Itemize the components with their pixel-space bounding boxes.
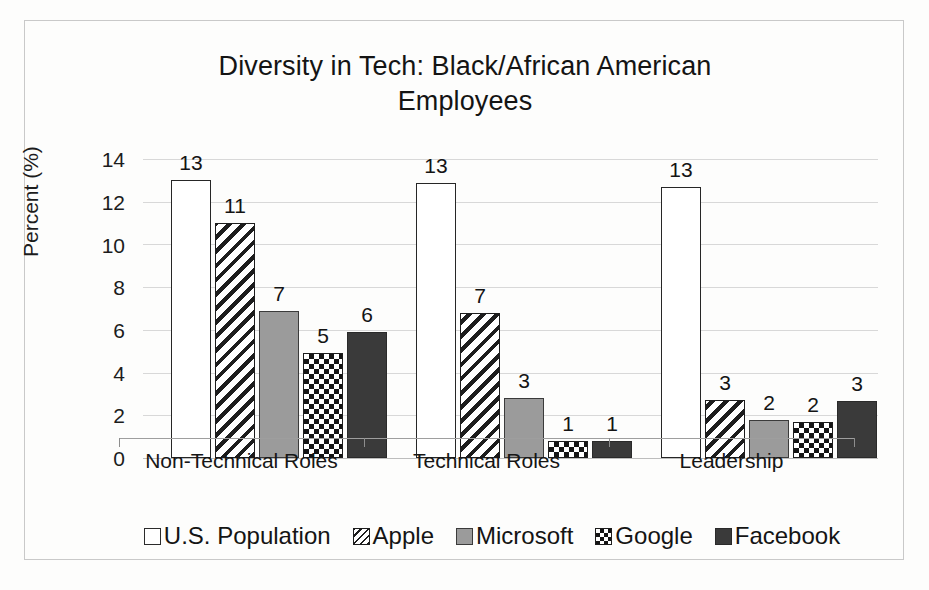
bar-label: 7 <box>474 284 486 308</box>
y-tick-label-4: 4 <box>85 362 125 386</box>
legend-label: Apple <box>373 522 434 550</box>
bar-non-technical-facebook[interactable]: 6 <box>347 332 387 458</box>
legend-item-google[interactable]: Google <box>595 522 692 550</box>
x-axis-tick-1 <box>364 438 365 447</box>
x-category-label-leadership: Leadership <box>609 449 854 473</box>
plot-area: 13 11 7 5 6 13 7 3 1 1 13 3 2 2 3 <box>143 159 878 458</box>
legend-label: U.S. Population <box>164 522 331 550</box>
bar-label: 1 <box>606 412 618 436</box>
bar-non-technical-apple[interactable]: 11 <box>215 223 255 458</box>
legend-item-facebook[interactable]: Facebook <box>715 522 840 550</box>
x-axis-line <box>119 438 854 439</box>
bar-label: 6 <box>361 303 373 327</box>
y-tick-label-2: 2 <box>85 404 125 428</box>
legend-swatch-us-population-icon <box>144 528 161 545</box>
legend-label: Microsoft <box>476 522 573 550</box>
bar-label: 13 <box>424 154 447 178</box>
legend-swatch-google-icon <box>595 528 612 545</box>
chart-legend: U.S. Population Apple Microsoft Google F… <box>77 518 907 554</box>
chart-title-line-2: Employees <box>85 84 845 119</box>
x-axis-tick-end <box>854 438 855 447</box>
bar-label: 3 <box>851 372 863 396</box>
bar-label: 2 <box>807 393 819 417</box>
y-tick-label-6: 6 <box>85 319 125 343</box>
legend-item-microsoft[interactable]: Microsoft <box>456 522 573 550</box>
legend-swatch-microsoft-icon <box>456 528 473 545</box>
bar-technical-apple[interactable]: 7 <box>460 313 500 458</box>
chart-title-line-1: Diversity in Tech: Black/African America… <box>85 49 845 84</box>
legend-label: Google <box>615 522 692 550</box>
chart-title: Diversity in Tech: Black/African America… <box>85 49 845 119</box>
x-category-label-technical-roles: Technical Roles <box>364 449 609 473</box>
bar-non-technical-microsoft[interactable]: 7 <box>259 311 299 458</box>
legend-swatch-apple-icon <box>353 528 370 545</box>
y-tick-label-10: 10 <box>85 234 125 258</box>
bar-non-technical-us-population[interactable]: 13 <box>171 180 211 458</box>
bar-label: 5 <box>317 324 329 348</box>
y-tick-label-14: 14 <box>85 148 125 172</box>
bar-technical-us-population[interactable]: 13 <box>416 183 456 459</box>
bar-group-leadership: 13 3 2 2 3 <box>661 159 891 458</box>
x-category-label-non-technical-roles: Non-Technical Roles <box>119 449 364 473</box>
bar-label: 13 <box>669 158 692 182</box>
bar-label: 7 <box>273 282 285 306</box>
legend-swatch-facebook-icon <box>715 528 732 545</box>
chart-frame: Diversity in Tech: Black/African America… <box>24 20 904 560</box>
bar-label: 3 <box>719 371 731 395</box>
x-axis-tick-2 <box>609 438 610 447</box>
x-axis-tick-start <box>119 438 120 447</box>
bar-label: 13 <box>179 151 202 175</box>
y-tick-label-12: 12 <box>85 191 125 215</box>
bar-group-non-technical-roles: 13 11 7 5 6 <box>171 159 401 458</box>
y-axis-title: Percent (%) <box>19 146 43 257</box>
bar-label: 11 <box>224 194 246 218</box>
bar-label: 2 <box>763 391 775 415</box>
bar-group-technical-roles: 13 7 3 1 1 <box>416 159 646 458</box>
bar-leadership-us-population[interactable]: 13 <box>661 187 701 458</box>
legend-item-us-population[interactable]: U.S. Population <box>144 522 331 550</box>
bar-label: 1 <box>562 412 574 436</box>
y-tick-label-8: 8 <box>85 276 125 300</box>
bar-non-technical-google[interactable]: 5 <box>303 353 343 458</box>
bar-label: 3 <box>518 369 530 393</box>
legend-item-apple[interactable]: Apple <box>353 522 434 550</box>
legend-label: Facebook <box>735 522 840 550</box>
